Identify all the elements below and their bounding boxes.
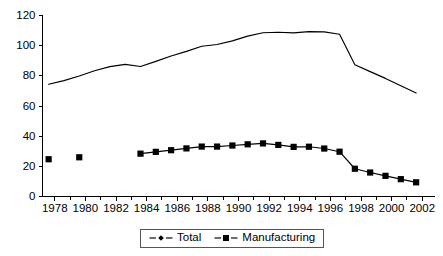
legend-item-total: Total bbox=[149, 232, 201, 244]
legend-label: Manufacturing bbox=[242, 232, 315, 244]
line-chart: 020406080100120 197819801982198419861988… bbox=[0, 0, 443, 256]
series-manufacturing bbox=[46, 140, 420, 185]
x-axis-tick-label: 1994 bbox=[287, 202, 313, 214]
data-point bbox=[306, 144, 312, 150]
chart-legend: TotalManufacturing bbox=[140, 229, 324, 248]
y-axis-tick-label: 120 bbox=[16, 9, 35, 21]
y-axis: 020406080100120 bbox=[16, 9, 42, 202]
x-axis-tick-label: 1990 bbox=[226, 202, 252, 214]
data-point bbox=[398, 176, 404, 182]
x-axis-tick-label: 1984 bbox=[134, 202, 160, 214]
data-series-group bbox=[46, 1, 420, 186]
legend-item-manufacturing: Manufacturing bbox=[214, 232, 315, 244]
data-point bbox=[137, 151, 143, 157]
data-point bbox=[229, 142, 235, 148]
data-point bbox=[413, 179, 419, 185]
legend-label: Total bbox=[177, 232, 201, 244]
y-axis-tick-label: 40 bbox=[23, 130, 36, 142]
data-point bbox=[199, 143, 205, 149]
data-point bbox=[275, 142, 281, 148]
data-point bbox=[260, 140, 266, 146]
x-axis-tick-label: 1988 bbox=[195, 202, 221, 214]
data-point bbox=[336, 149, 342, 155]
x-axis-tick-label: 1980 bbox=[73, 202, 99, 214]
x-axis: 1978198019821984198619881990199219941996… bbox=[42, 197, 435, 215]
chart-plot-area: 020406080100120 197819801982198419861988… bbox=[0, 0, 443, 256]
y-axis-tick-label: 20 bbox=[23, 160, 36, 172]
x-axis-tick-label: 2002 bbox=[409, 202, 435, 214]
x-axis-tick-label: 1982 bbox=[103, 202, 129, 214]
data-point bbox=[153, 149, 159, 155]
data-point bbox=[245, 141, 251, 147]
x-axis-tick-label: 1998 bbox=[348, 202, 374, 214]
data-point bbox=[46, 156, 52, 162]
series-line-total bbox=[49, 32, 417, 93]
series-total bbox=[49, 1, 417, 93]
x-axis-tick-label: 1996 bbox=[318, 202, 344, 214]
data-point bbox=[367, 169, 373, 175]
data-point bbox=[76, 154, 82, 160]
y-axis-tick-label: 80 bbox=[23, 69, 36, 81]
x-axis-tick-label: 1986 bbox=[164, 202, 190, 214]
legend-marker-square-icon bbox=[214, 233, 238, 243]
y-axis-tick-label: 100 bbox=[16, 39, 35, 51]
series-line-manufacturing bbox=[141, 143, 417, 182]
data-point bbox=[183, 145, 189, 151]
x-axis-tick-label: 1978 bbox=[42, 202, 68, 214]
x-axis-tick-label: 2000 bbox=[379, 202, 405, 214]
data-point bbox=[321, 145, 327, 151]
data-point bbox=[352, 166, 358, 172]
x-axis-tick-label: 1992 bbox=[256, 202, 282, 214]
data-point bbox=[168, 147, 174, 153]
y-axis-tick-label: 60 bbox=[23, 100, 36, 112]
legend-marker-diamond-icon bbox=[149, 233, 173, 243]
data-point bbox=[382, 173, 388, 179]
data-point bbox=[291, 144, 297, 150]
data-point bbox=[214, 143, 220, 149]
y-axis-tick-label: 0 bbox=[29, 190, 35, 202]
